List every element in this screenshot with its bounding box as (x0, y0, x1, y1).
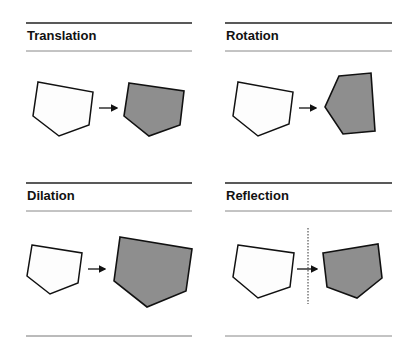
preimage-pentagon (33, 82, 93, 136)
preimage-pentagon (233, 245, 294, 298)
reflection-figure (233, 228, 382, 304)
image-pentagon (323, 244, 382, 298)
preimage-pentagon (233, 82, 293, 136)
image-pentagon (325, 73, 375, 134)
dilation-figure (27, 237, 192, 307)
image-pentagon (114, 237, 192, 307)
image-pentagon (124, 83, 184, 136)
translation-figure (33, 82, 184, 136)
preimage-pentagon (27, 245, 82, 294)
transformations-diagram (0, 0, 412, 359)
rotation-figure (233, 73, 375, 136)
